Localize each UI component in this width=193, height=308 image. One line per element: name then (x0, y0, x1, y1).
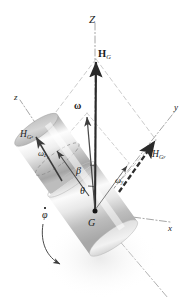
axis-label-Z: Z (89, 14, 95, 25)
vector-label-HGy: HGy (152, 150, 165, 161)
axis-label-y: y (174, 103, 178, 112)
vector-label-HG-main: H (98, 48, 106, 59)
axis-label-z: z (14, 93, 18, 102)
axis-label-x: x (168, 224, 172, 233)
vector-label-omega-y: ωy (115, 176, 123, 186)
vector-label-HG: HG (98, 49, 111, 60)
vector-label-omega-y-sub: y (121, 179, 123, 185)
vector-label-HGz-sub2: z (31, 134, 33, 139)
vector-HG (95, 62, 96, 211)
angle-label-theta: θ (80, 186, 85, 196)
point-G (93, 209, 98, 214)
vector-label-HGy-sub2: y (163, 154, 165, 159)
vector-label-HGz: HGz (20, 130, 33, 141)
vector-label-HGy-main: H (152, 149, 159, 159)
vector-label-omega-z: ωz (38, 149, 46, 159)
vector-label-HGz-main: H (20, 129, 27, 139)
precession-label-phi-dot: φ (42, 210, 48, 220)
vector-label-HG-sub: G (106, 53, 111, 60)
precession-label-phi-glyph: φ (42, 210, 48, 220)
vector-HGy (119, 141, 155, 192)
point-label-G: G (88, 218, 95, 228)
angle-label-beta: β (76, 166, 81, 176)
vector-label-omega-z-sub: z (44, 152, 46, 158)
vector-label-omega: ω (74, 101, 81, 111)
